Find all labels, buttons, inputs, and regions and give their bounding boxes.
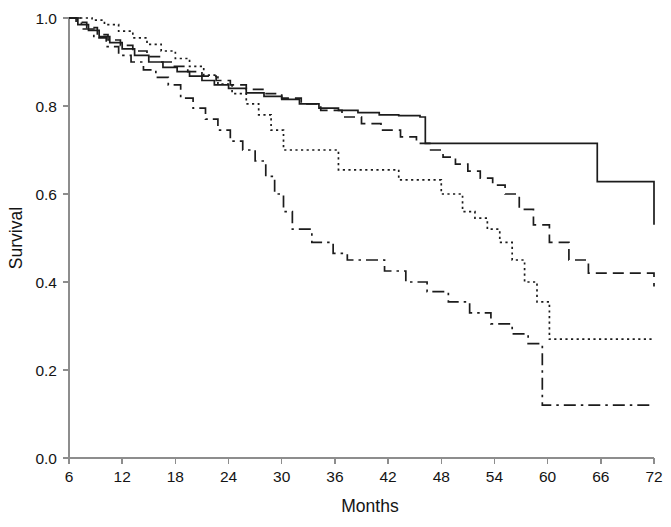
y-axis-ticks: 0.00.20.40.60.81.0 xyxy=(35,10,69,467)
x-tick-label: 18 xyxy=(167,468,184,485)
x-axis-title: Months xyxy=(341,496,399,516)
x-tick-label: 60 xyxy=(539,468,557,485)
x-tick-label: 24 xyxy=(220,468,238,485)
x-tick-label: 6 xyxy=(65,468,74,485)
y-tick-label: 0.2 xyxy=(35,362,57,379)
y-tick-label: 0.4 xyxy=(35,274,57,291)
y-axis-title: Survival xyxy=(6,207,26,269)
x-tick-label: 12 xyxy=(114,468,131,485)
x-tick-label: 48 xyxy=(433,468,450,485)
x-axis-ticks: 61218243036424854606672 xyxy=(65,458,663,485)
x-tick-label: 54 xyxy=(486,468,504,485)
y-tick-label: 0.6 xyxy=(35,186,57,203)
y-tick-label: 0.8 xyxy=(35,98,57,115)
survival-curve-2 xyxy=(69,18,654,286)
survival-curve-4 xyxy=(69,18,654,405)
survival-chart-figure: 61218243036424854606672 0.00.20.40.60.81… xyxy=(0,0,671,527)
survival-curves xyxy=(69,18,654,405)
y-tick-label: 1.0 xyxy=(35,10,57,27)
x-tick-label: 36 xyxy=(326,468,343,485)
axis-lines xyxy=(69,18,654,458)
x-tick-label: 42 xyxy=(379,468,396,485)
x-tick-label: 30 xyxy=(273,468,291,485)
x-tick-label: 66 xyxy=(592,468,609,485)
survival-curve-3 xyxy=(69,18,654,339)
y-tick-label: 0.0 xyxy=(35,450,57,467)
survival-plot-svg: 61218243036424854606672 0.00.20.40.60.81… xyxy=(0,0,671,527)
x-tick-label: 72 xyxy=(645,468,662,485)
